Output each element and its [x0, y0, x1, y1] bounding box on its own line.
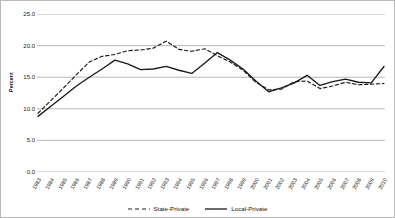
legend-label-local-private: Local-Private	[231, 205, 267, 212]
x-tick-label: 2007	[339, 177, 350, 190]
x-tick-label: 1987	[83, 177, 94, 190]
x-tick-label: 1986	[70, 177, 81, 190]
x-tick-label: 1984	[45, 177, 56, 190]
x-tick-label: 1988	[96, 177, 107, 190]
x-tick-label: 1994	[173, 177, 184, 190]
x-tick-label: 2000	[250, 177, 261, 190]
x-tick-label: 2009	[365, 177, 376, 190]
x-tick-label: 1992	[147, 177, 158, 190]
y-tick-label: 15.0	[1, 74, 35, 80]
x-tick-label: 1989	[109, 177, 120, 190]
y-tick-label: 0.0	[1, 169, 35, 175]
x-tick-label: 2008	[352, 177, 363, 190]
x-tick-label: 1998	[224, 177, 235, 190]
x-tick-label: 2006	[326, 177, 337, 190]
chart-legend: State-Private Local-Private	[1, 205, 394, 212]
x-tick-label: 2003	[288, 177, 299, 190]
legend-label-state-private: State-Private	[154, 205, 190, 212]
x-tick-label: 2004	[301, 177, 312, 190]
plot-area	[37, 14, 385, 172]
legend-item-state-private: State-Private	[128, 205, 190, 212]
legend-swatch-dashed	[128, 206, 150, 212]
x-tick-label: 1993	[160, 177, 171, 190]
chart-container: Percent 0.05.010.015.020.025.0 198319841…	[0, 0, 395, 218]
x-tick-label: 1999	[237, 177, 248, 190]
y-tick-label: 20.0	[1, 43, 35, 49]
x-tick-label: 1996	[198, 177, 209, 190]
x-tick-label: 1985	[57, 177, 68, 190]
x-axis-tick-labels: 1983198419851986198719881989199019911992…	[37, 173, 385, 207]
series-lines	[37, 14, 385, 172]
x-tick-label: 2005	[314, 177, 325, 190]
x-tick-label: 2002	[275, 177, 286, 190]
y-tick-label: 5.0	[1, 137, 35, 143]
legend-item-local-private: Local-Private	[205, 205, 267, 212]
legend-swatch-solid	[205, 206, 227, 212]
y-tick-label: 10.0	[1, 106, 35, 112]
x-tick-label: 1997	[211, 177, 222, 190]
x-tick-label: 1990	[121, 177, 132, 190]
x-tick-label: 2001	[262, 177, 273, 190]
y-tick-label: 25.0	[1, 11, 35, 17]
x-tick-label: 1995	[185, 177, 196, 190]
x-tick-label: 2010	[378, 177, 389, 190]
x-tick-label: 1991	[134, 177, 145, 190]
y-axis-tick-labels: 0.05.010.015.020.025.0	[1, 1, 35, 218]
